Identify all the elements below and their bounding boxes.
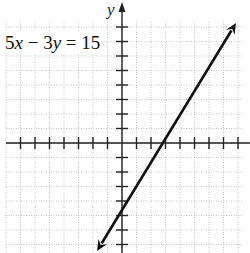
eq-mid: − 3	[23, 32, 53, 53]
graph-line	[102, 31, 232, 244]
axis-ticks	[21, 27, 239, 245]
y-axis-arrow-icon	[119, 2, 126, 12]
eq-coef: 5	[5, 32, 15, 53]
equation-label: 5x − 3y = 15	[4, 32, 101, 54]
y-axis-label: y	[107, 0, 115, 20]
eq-rhs: = 15	[61, 32, 100, 53]
eq-x: x	[15, 32, 23, 53]
eq-y: y	[53, 32, 61, 53]
